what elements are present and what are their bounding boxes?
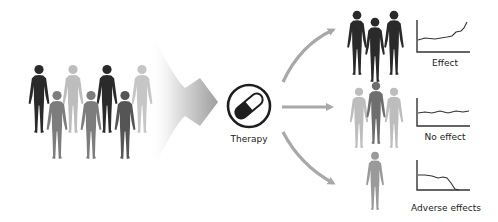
no-effect-label: No effect: [415, 132, 475, 142]
adverse-group: [366, 152, 470, 210]
person-icon: [350, 88, 368, 148]
person-icon: [29, 65, 50, 133]
person-icon: [132, 65, 153, 133]
gradient-funnel-arrow: [150, 30, 218, 175]
person-icon: [385, 88, 403, 148]
therapy-label: Therapy: [224, 134, 274, 144]
person-icon: [384, 11, 404, 75]
person-icon: [347, 11, 367, 75]
diagram-canvas: Therapy Effect No effect Adverse effects: [0, 0, 498, 222]
adverse-chart-icon: [417, 160, 470, 190]
no-effect-chart-icon: [417, 98, 470, 126]
effect-group: [347, 11, 470, 82]
person-icon: [365, 18, 385, 82]
effect-label: Effect: [420, 58, 470, 68]
person-icon: [366, 152, 384, 210]
effect-chart-icon: [417, 20, 470, 52]
adverse-effects-label: Adverse effects: [408, 203, 484, 213]
person-icon: [367, 82, 386, 144]
pill-capsule-icon: [228, 85, 270, 127]
outcome-arrows: [282, 30, 333, 183]
input-population: [29, 65, 153, 159]
